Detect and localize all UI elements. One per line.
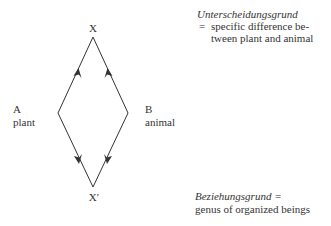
node-x-label: X [89, 22, 97, 34]
unterscheidungsgrund-line1: specific difference be- [211, 20, 309, 32]
node-b-label: animal [145, 116, 175, 128]
beziehungsgrund-term: Beziehungsgrund [195, 190, 271, 202]
beziehungsgrund-line1: genus of organized beings [195, 203, 310, 215]
edge-b-to-xprime [93, 113, 128, 187]
node-x-prime-label: X′ [89, 191, 99, 203]
unterscheidungsgrund-line2: tween plant and animal [211, 32, 313, 44]
unterscheidungsgrund-term: Unterscheidungsgrund [197, 8, 298, 20]
node-a-letter: A [13, 103, 21, 115]
node-a-label: plant [13, 116, 35, 128]
unterscheidungsgrund-equals: = [199, 20, 205, 32]
node-b-letter: B [145, 103, 152, 115]
edge-a-to-xprime [58, 113, 93, 187]
beziehungsgrund-equals: = [275, 190, 281, 202]
